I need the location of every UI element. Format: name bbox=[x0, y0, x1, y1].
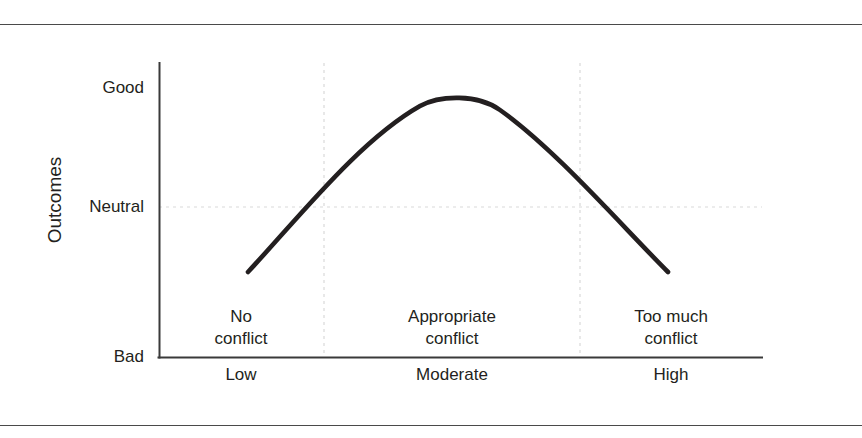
x-category-label-too-much-conflict-line2: conflict bbox=[571, 328, 771, 350]
x-category-label-no-conflict-line1: No bbox=[141, 306, 341, 328]
y-tick-label-good: Good bbox=[40, 77, 144, 98]
x-tick-label-high: High bbox=[581, 364, 761, 386]
x-category-label-too-much-conflict: Too much conflict bbox=[571, 306, 771, 350]
figure-canvas: Outcomes Good Neutral Bad No conflict Ap… bbox=[0, 0, 862, 438]
x-tick-label-moderate: Moderate bbox=[362, 364, 542, 386]
y-tick-label-bad: Bad bbox=[40, 346, 144, 367]
x-category-label-no-conflict-line2: conflict bbox=[141, 328, 341, 350]
data-curve-inverted-u bbox=[248, 98, 668, 272]
x-category-label-appropriate-conflict-line2: conflict bbox=[352, 328, 552, 350]
x-category-label-appropriate-conflict: Appropriate conflict bbox=[352, 306, 552, 350]
x-category-label-no-conflict: No conflict bbox=[141, 306, 341, 350]
x-tick-label-low: Low bbox=[151, 364, 331, 386]
x-category-label-appropriate-conflict-line1: Appropriate bbox=[352, 306, 552, 328]
x-category-label-too-much-conflict-line1: Too much bbox=[571, 306, 771, 328]
y-tick-label-neutral: Neutral bbox=[30, 196, 144, 217]
